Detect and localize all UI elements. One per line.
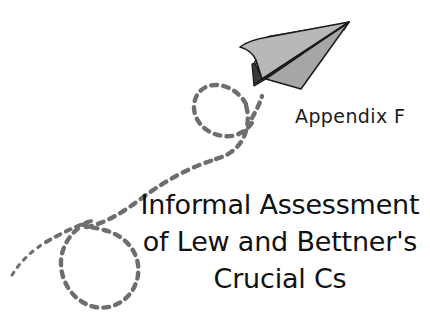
trail-segment-to-plane [252, 96, 262, 118]
paper-airplane [240, 14, 360, 94]
page-title: Informal Assessment of Lew and Bettner's… [136, 186, 424, 297]
title-line-3: Crucial Cs [136, 260, 424, 297]
title-line-1: Informal Assessment [136, 186, 424, 223]
appendix-cover-page: Appendix F Informal Assessment of Lew an… [0, 0, 430, 321]
appendix-label: Appendix F [295, 107, 405, 126]
trail-segment-large-loop [61, 222, 138, 308]
title-line-2: of Lew and Bettner's [136, 223, 424, 260]
trail-segment-tail [12, 241, 48, 275]
